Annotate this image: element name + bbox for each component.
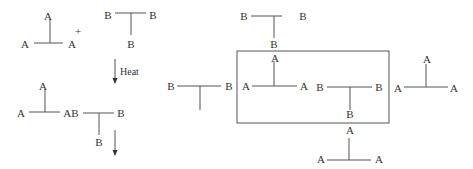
- product-a-left: A: [17, 108, 25, 119]
- net-box-b3-left: B: [316, 82, 323, 93]
- heat-label: Heat: [120, 66, 139, 77]
- net-top-b3-right: B: [299, 11, 306, 22]
- b3-bottom-label: B: [127, 39, 134, 50]
- net-box-a3-left: A: [242, 81, 250, 92]
- a3-left-label: A: [21, 39, 29, 50]
- a3-top-label: A: [44, 11, 52, 22]
- net-left-b3-left: B: [167, 81, 174, 92]
- product-a-top: A: [39, 81, 47, 92]
- net-right-a3-top: A: [423, 54, 431, 65]
- plus-sign: +: [75, 26, 81, 37]
- net-box-a3-right: A: [300, 81, 308, 92]
- net-box-b3-bottom: B: [346, 109, 353, 120]
- heat-arrow-head: [113, 78, 118, 84]
- net-top-b3-bottom: B: [270, 39, 277, 50]
- net-bottom-a3-top: A: [346, 125, 354, 136]
- net-right-a3-left: A: [394, 83, 402, 94]
- product-ab-link: AB: [63, 108, 78, 119]
- second-arrow-head: [113, 150, 118, 156]
- a3-right-label: A: [68, 39, 76, 50]
- net-bottom-a3-left: A: [317, 154, 325, 165]
- product-b-bottom: B: [95, 137, 102, 148]
- net-top-b3-left: B: [240, 11, 247, 22]
- b3-right-label: B: [149, 10, 156, 21]
- b3-left-label: B: [104, 10, 111, 21]
- net-right-a3-right: A: [450, 83, 458, 94]
- diagram-lines: [0, 0, 473, 169]
- net-box-a3-top: A: [271, 53, 279, 64]
- net-box-b3-right: B: [375, 82, 382, 93]
- net-bottom-a3-right: A: [375, 154, 383, 165]
- product-b-right: B: [117, 108, 124, 119]
- net-left-b3-right: B: [225, 81, 232, 92]
